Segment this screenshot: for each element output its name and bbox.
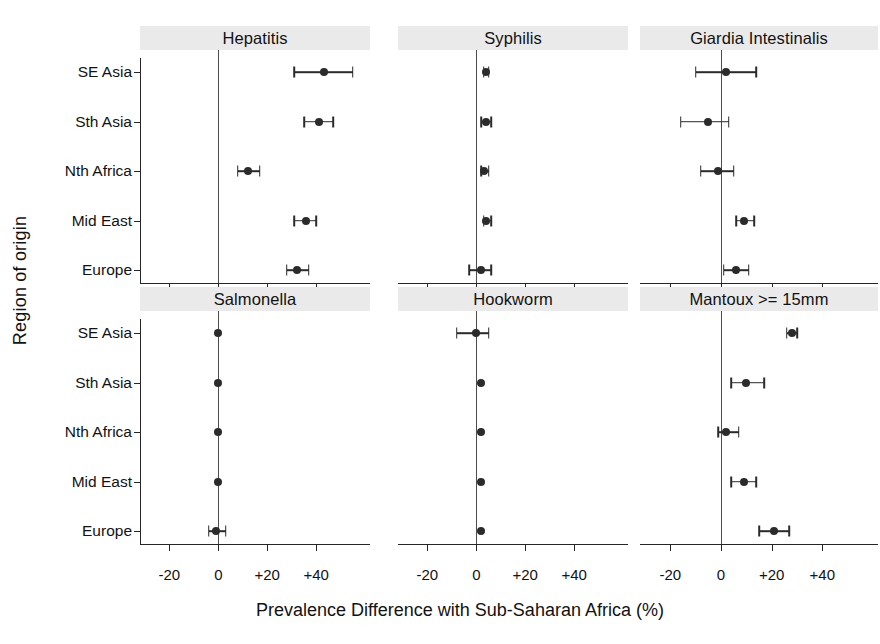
data-point-marker — [214, 379, 222, 387]
data-point-marker — [740, 217, 748, 225]
confidence-interval-cap — [456, 328, 458, 339]
data-point-marker — [212, 527, 220, 535]
x-axis-title: Prevalence Difference with Sub-Saharan A… — [40, 600, 880, 621]
confidence-interval-cap — [753, 215, 755, 226]
data-point-marker — [477, 527, 485, 535]
x-axis-tick — [721, 545, 722, 551]
x-axis-spine — [640, 544, 878, 545]
zero-reference-line — [721, 50, 722, 284]
x-tick-label: +40 — [561, 566, 586, 583]
x-axis-spine — [640, 283, 878, 284]
confidence-interval-cap — [738, 427, 740, 438]
confidence-interval-cap — [237, 166, 239, 177]
zero-reference-line — [476, 50, 477, 284]
y-axis-tick — [134, 122, 140, 123]
y-axis-tick — [134, 531, 140, 532]
panel-title: Hepatitis — [222, 29, 287, 48]
confidence-interval-cap — [763, 377, 765, 388]
y-category-labels: SE AsiaSth AsiaNth AfricaMid EastEurope — [38, 50, 132, 284]
panel-hookworm: Hookworm — [398, 287, 628, 545]
data-point-marker — [477, 379, 485, 387]
confidence-interval-cap — [796, 328, 798, 339]
confidence-interval-cap — [293, 215, 295, 226]
panel-row: HepatitisSE AsiaSth AsiaNth AfricaMid Ea… — [40, 26, 880, 284]
confidence-interval-cap — [756, 476, 758, 487]
data-point-marker — [477, 428, 485, 436]
confidence-interval-cap — [490, 265, 492, 276]
x-axis-tick — [169, 545, 170, 551]
confidence-interval-cap — [208, 526, 210, 537]
data-point-marker — [482, 68, 490, 76]
data-point-marker — [477, 266, 485, 274]
x-axis-tick — [525, 545, 526, 551]
x-axis-tick — [574, 545, 575, 551]
confidence-interval-cap — [352, 67, 354, 78]
confidence-interval-cap — [730, 377, 732, 388]
zero-reference-line — [721, 311, 722, 545]
plot-area — [398, 311, 628, 545]
panel-strip-header: Syphilis — [398, 26, 628, 50]
confidence-interval-cap — [680, 116, 682, 127]
data-point-marker — [722, 68, 730, 76]
x-axis-tick — [316, 545, 317, 551]
y-axis-tick — [134, 171, 140, 172]
x-tick-label: +20 — [759, 566, 784, 583]
y-category-label: Mid East — [72, 212, 132, 230]
data-point-marker — [315, 118, 323, 126]
y-axis-tick — [134, 72, 140, 73]
confidence-interval-cap — [488, 166, 490, 177]
x-axis-tick — [267, 545, 268, 551]
confidence-interval-cap — [488, 328, 490, 339]
data-point-marker — [742, 379, 750, 387]
x-tick-label-group: -200+20+40 — [640, 566, 878, 590]
data-point-marker — [732, 266, 740, 274]
y-category-label: SE Asia — [78, 63, 132, 81]
x-tick-label: -20 — [159, 566, 181, 583]
confidence-interval-cap — [259, 166, 261, 177]
data-point-marker — [477, 478, 485, 486]
x-tick-label: +40 — [303, 566, 328, 583]
data-point-marker — [214, 428, 222, 436]
x-tick-label-band: -200+20+40-200+20+40-200+20+40 — [40, 566, 880, 590]
confidence-interval-cap — [490, 215, 492, 226]
confidence-interval-cap — [718, 427, 720, 438]
x-axis-spine — [398, 544, 628, 545]
y-axis-title-text: Region of origin — [11, 215, 32, 344]
y-axis-spine — [140, 58, 141, 284]
x-tick-label: -20 — [660, 566, 682, 583]
y-axis-tick — [134, 432, 140, 433]
x-axis-tick — [822, 545, 823, 551]
confidence-interval-cap — [468, 265, 470, 276]
x-tick-label: +20 — [512, 566, 537, 583]
panel-title: Hookworm — [473, 290, 553, 309]
y-category-label: Mid East — [72, 473, 132, 491]
data-point-marker — [788, 329, 796, 337]
y-axis-tick — [134, 221, 140, 222]
x-axis-tick — [218, 545, 219, 551]
x-tick-label: 0 — [717, 566, 725, 583]
confidence-interval-cap — [758, 526, 760, 537]
confidence-interval-cap — [333, 116, 335, 127]
plot-area — [140, 311, 370, 545]
data-point-marker — [480, 167, 488, 175]
y-axis-tick — [134, 482, 140, 483]
confidence-interval-cap — [733, 166, 735, 177]
confidence-interval-cap — [286, 265, 288, 276]
confidence-interval-cap — [695, 67, 697, 78]
y-axis-tick — [134, 383, 140, 384]
x-tick-label: +40 — [810, 566, 835, 583]
plot-area — [640, 311, 878, 545]
confidence-interval-cap — [700, 166, 702, 177]
data-point-marker — [714, 167, 722, 175]
x-axis-spine — [398, 283, 628, 284]
data-point-marker — [293, 266, 301, 274]
plot-area — [640, 50, 878, 284]
data-point-marker — [722, 428, 730, 436]
data-point-marker — [704, 118, 712, 126]
panel-mantoux-15mm: Mantoux >= 15mm — [640, 287, 878, 545]
y-axis-spine — [140, 319, 141, 545]
data-point-marker — [482, 118, 490, 126]
y-category-label: Nth Africa — [65, 423, 132, 441]
panel-row: SalmonellaSE AsiaSth AsiaNth AfricaMid E… — [40, 287, 880, 545]
panel-strip-header: Hookworm — [398, 287, 628, 311]
